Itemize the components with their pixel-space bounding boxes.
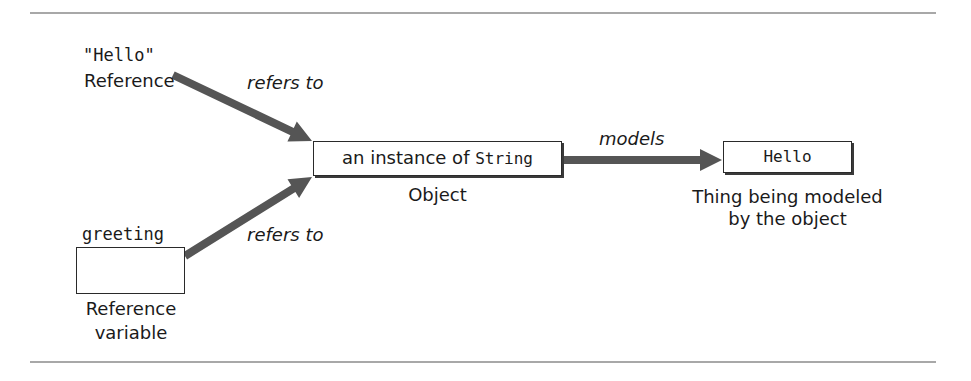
modeled-thing-caption-line1: Thing being modeled — [660, 186, 915, 208]
reference-variable-caption-line1: Reference — [66, 298, 196, 320]
edge-label-models: models — [599, 128, 664, 150]
literal-reference-caption: Reference — [84, 70, 175, 92]
reference-variable-box — [76, 247, 185, 294]
reference-variable-caption-line2: variable — [66, 322, 196, 344]
reference-variable-name: greeting — [82, 223, 164, 245]
modeled-thing-box: Hello — [723, 141, 852, 173]
edge-label-refers-to-1: refers to — [247, 72, 323, 94]
modeled-thing-caption-line2: by the object — [660, 208, 915, 230]
arrow-models — [563, 149, 722, 171]
object-box: an instance of String — [313, 141, 562, 176]
edge-label-refers-to-2: refers to — [247, 224, 323, 246]
literal-reference-code: "Hello" — [83, 44, 155, 66]
modeled-thing-text: Hello — [724, 147, 851, 167]
object-text-prefix: an instance of — [342, 147, 475, 168]
object-caption: Object — [313, 184, 562, 206]
object-box-text: an instance of String — [314, 147, 561, 170]
object-text-class: String — [475, 149, 533, 168]
arrow-refers-to-2 — [183, 177, 312, 259]
